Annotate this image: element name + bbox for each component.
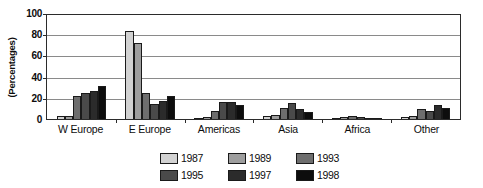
legend-swatch bbox=[160, 170, 178, 181]
bar bbox=[357, 117, 365, 119]
bar bbox=[167, 96, 175, 119]
bar-group bbox=[47, 15, 116, 119]
bar-group-bars bbox=[332, 15, 382, 119]
legend-label: 1987 bbox=[181, 153, 203, 164]
bar-group-bars bbox=[125, 15, 175, 119]
plot-area bbox=[46, 14, 461, 120]
x-tick-label: Americas bbox=[184, 122, 253, 138]
bar bbox=[65, 116, 73, 119]
bar bbox=[434, 105, 442, 119]
bar-group bbox=[322, 15, 391, 119]
bar bbox=[194, 118, 202, 119]
bar bbox=[150, 104, 158, 119]
legend-item[interactable]: 1998 bbox=[296, 167, 360, 183]
bar-group-bars bbox=[263, 15, 313, 119]
bar bbox=[125, 31, 133, 119]
y-tick-label: 40 bbox=[31, 73, 42, 83]
legend-item[interactable]: 1989 bbox=[228, 150, 292, 166]
bar bbox=[340, 117, 348, 119]
y-tick-label: 20 bbox=[31, 94, 42, 104]
bar bbox=[271, 115, 279, 119]
legend-swatch bbox=[228, 170, 246, 181]
bar bbox=[442, 108, 450, 119]
legend-swatch bbox=[160, 153, 178, 164]
legend-label: 1993 bbox=[317, 153, 339, 164]
bar bbox=[98, 86, 106, 119]
legend-swatch bbox=[296, 170, 314, 181]
y-tick-label: 80 bbox=[31, 30, 42, 40]
bar bbox=[90, 91, 98, 119]
legend-item[interactable]: 1995 bbox=[160, 167, 224, 183]
bar bbox=[211, 111, 219, 119]
bar-group-bars bbox=[57, 15, 107, 119]
legend-item[interactable]: 1993 bbox=[296, 150, 360, 166]
bar-group-bars bbox=[194, 15, 244, 119]
bar bbox=[304, 112, 312, 119]
y-tick-label: 0 bbox=[37, 115, 42, 125]
legend-label: 1997 bbox=[249, 170, 271, 181]
bar bbox=[332, 118, 340, 119]
bar bbox=[159, 101, 167, 119]
x-tick-label: Asia bbox=[254, 122, 323, 138]
bar bbox=[263, 116, 271, 119]
legend-swatch bbox=[296, 153, 314, 164]
legend-label: 1995 bbox=[181, 170, 203, 181]
bar bbox=[417, 109, 425, 119]
x-tick-label: Africa bbox=[323, 122, 392, 138]
x-tick-label: Other bbox=[392, 122, 461, 138]
bar bbox=[73, 96, 81, 119]
bar bbox=[134, 43, 142, 119]
bar-chart-figure: (Percentages) 020406080100 W EuropeE Eur… bbox=[0, 0, 483, 188]
bar bbox=[409, 116, 417, 119]
bar bbox=[365, 118, 373, 119]
bar bbox=[236, 105, 244, 119]
bar-groups bbox=[47, 15, 460, 119]
bar bbox=[227, 102, 235, 119]
chart-legend: 198719891993199519971998 bbox=[160, 150, 360, 183]
bar bbox=[348, 116, 356, 119]
y-tick-label: 100 bbox=[26, 9, 42, 19]
legend-item[interactable]: 1987 bbox=[160, 150, 224, 166]
bar bbox=[142, 93, 150, 120]
bar bbox=[401, 117, 409, 119]
legend-label: 1989 bbox=[249, 153, 271, 164]
bar-group bbox=[391, 15, 460, 119]
bar bbox=[288, 103, 296, 119]
bar bbox=[57, 116, 65, 119]
bar-group bbox=[185, 15, 254, 119]
bar-group-bars bbox=[401, 15, 451, 119]
y-tick-label: 60 bbox=[31, 51, 42, 61]
y-axis-tick-labels: 020406080100 bbox=[18, 14, 44, 120]
x-tick-label: E Europe bbox=[115, 122, 184, 138]
legend-label: 1998 bbox=[317, 170, 339, 181]
bar bbox=[219, 102, 227, 119]
bar bbox=[296, 109, 304, 119]
legend-swatch bbox=[228, 153, 246, 164]
bar bbox=[373, 118, 381, 119]
legend-item[interactable]: 1997 bbox=[228, 167, 292, 183]
x-tick-label: W Europe bbox=[46, 122, 115, 138]
bar-group bbox=[253, 15, 322, 119]
bar bbox=[280, 108, 288, 119]
bar-group bbox=[116, 15, 185, 119]
x-axis-labels: W EuropeE EuropeAmericasAsiaAfricaOther bbox=[46, 122, 461, 138]
bar bbox=[426, 111, 434, 119]
bar bbox=[81, 93, 89, 120]
y-axis-title-text: (Percentages) bbox=[6, 37, 17, 97]
bar bbox=[203, 117, 211, 119]
